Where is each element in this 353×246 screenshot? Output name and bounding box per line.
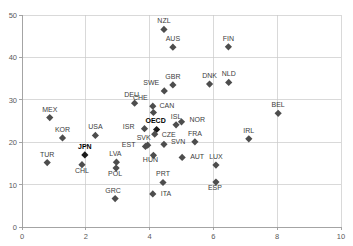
data-point-fra bbox=[191, 138, 198, 145]
data-point-labels: NZLAUSFINGBRDNKNLDSWEDEUCHEBELMEXCANISLN… bbox=[40, 17, 285, 197]
data-point-label-bel: BEL bbox=[272, 101, 285, 108]
data-point-label-ita: ITA bbox=[161, 190, 172, 197]
data-point-label-dnk: DNK bbox=[202, 72, 217, 79]
data-point-mex bbox=[46, 114, 53, 121]
data-point-label-nld: NLD bbox=[222, 70, 236, 77]
y-tick-label: 50 bbox=[9, 11, 17, 20]
data-point-aut bbox=[179, 154, 186, 161]
data-point-label-svk: SVK bbox=[137, 134, 151, 141]
data-point-tur bbox=[44, 159, 51, 166]
data-point-gbr bbox=[169, 81, 176, 88]
data-point-label-grc: GRC bbox=[105, 187, 121, 194]
data-point-irl bbox=[245, 135, 252, 142]
data-point-label-esp: ESP bbox=[208, 184, 222, 191]
x-tick-label: 8 bbox=[275, 232, 279, 241]
y-tick-label: 20 bbox=[9, 138, 17, 147]
data-point-label-tur: TUR bbox=[40, 151, 54, 158]
data-point-isr bbox=[141, 125, 148, 132]
data-point-grc bbox=[112, 195, 119, 202]
data-point-label-cze: CZE bbox=[162, 131, 176, 138]
data-point-label-est: EST bbox=[122, 141, 136, 148]
data-point-label-nor: NOR bbox=[190, 116, 206, 123]
data-point-label-prt: PRT bbox=[156, 170, 171, 177]
x-tick-label: 2 bbox=[84, 232, 88, 241]
data-point-label-chl: CHL bbox=[75, 167, 89, 174]
data-point-label-can: CAN bbox=[159, 102, 174, 109]
data-point-can bbox=[150, 109, 157, 116]
data-point-fin bbox=[225, 43, 232, 50]
data-point-label-isr: ISR bbox=[123, 123, 135, 130]
data-point-lva bbox=[113, 159, 120, 166]
data-point-label-fra: FRA bbox=[188, 130, 202, 137]
data-point-label-jpn: JPN bbox=[78, 143, 92, 150]
data-point-prt bbox=[159, 179, 166, 186]
data-point-label-gbr: GBR bbox=[165, 73, 180, 80]
data-point-dnk bbox=[206, 81, 213, 88]
data-point-label-aus: AUS bbox=[166, 35, 181, 42]
data-point-label-svn: SVN bbox=[171, 138, 185, 145]
data-point-label-kor: KOR bbox=[55, 126, 70, 133]
x-tick-label: 10 bbox=[337, 232, 345, 241]
data-point-label-che: CHE bbox=[133, 94, 148, 101]
data-point-label-fin: FIN bbox=[223, 35, 234, 42]
data-point-kor bbox=[59, 134, 66, 141]
data-point-label-lux: LUX bbox=[209, 153, 223, 160]
data-point-label-usa: USA bbox=[88, 123, 103, 130]
y-tick-label: 10 bbox=[9, 181, 17, 190]
y-tick-label: 40 bbox=[9, 53, 17, 62]
data-point-svn bbox=[160, 141, 167, 148]
data-point-aus bbox=[169, 44, 176, 51]
data-point-label-isl: ISL bbox=[171, 113, 182, 120]
x-tick-label: 6 bbox=[211, 232, 215, 241]
data-point-label-hun: HUN bbox=[143, 156, 158, 163]
y-tick-label: 0 bbox=[13, 223, 17, 232]
y-tick-label: 30 bbox=[9, 96, 17, 105]
scatter-chart: 024681001020304050 NZLAUSFINGBRDNKNLDSWE… bbox=[0, 0, 353, 246]
data-point-label-mex: MEX bbox=[42, 106, 58, 113]
data-point-swe bbox=[161, 87, 168, 94]
data-point-nld bbox=[225, 79, 232, 86]
data-point-label-swe: SWE bbox=[143, 79, 159, 86]
data-point-label-oecd: OECD bbox=[146, 117, 166, 124]
data-point-label-pol: POL bbox=[108, 170, 122, 177]
x-tick-label: 4 bbox=[148, 232, 152, 241]
data-point-label-nzl: NZL bbox=[157, 17, 170, 24]
data-point-label-aut: AUT bbox=[190, 153, 205, 160]
data-point-jpn bbox=[81, 151, 88, 158]
data-point-nzl bbox=[160, 26, 167, 33]
data-point-usa bbox=[92, 132, 99, 139]
data-point-label-lva: LVA bbox=[109, 150, 122, 157]
x-tick-label: 0 bbox=[20, 232, 24, 241]
data-point-che bbox=[149, 103, 156, 110]
data-point-ita bbox=[149, 190, 156, 197]
data-point-label-irl: IRL bbox=[243, 127, 254, 134]
data-point-bel bbox=[275, 110, 282, 117]
plot-area: 024681001020304050 NZLAUSFINGBRDNKNLDSWE… bbox=[0, 0, 353, 246]
